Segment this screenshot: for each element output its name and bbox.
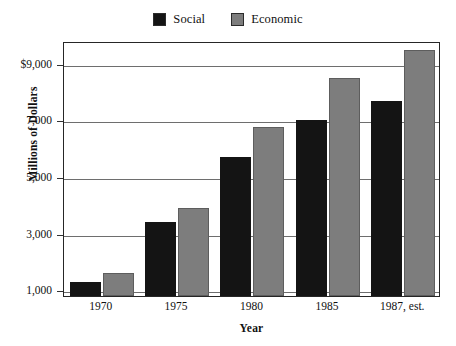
bar-group — [215, 43, 290, 296]
bar-group — [139, 43, 214, 296]
y-ticklabel: 3,000 — [26, 229, 52, 241]
bar-economic-1975[interactable] — [178, 208, 209, 296]
y-ticklabel: 5,000 — [26, 172, 52, 184]
bar-social-1970[interactable] — [70, 282, 101, 296]
x-ticklabel: 1970 — [89, 301, 112, 313]
bar-group — [366, 43, 440, 296]
bar-social-1987[interactable] — [371, 101, 402, 297]
legend-label: Social — [173, 13, 205, 26]
y-ticklabel: 1,000 — [26, 286, 52, 298]
bar-social-1980[interactable] — [220, 157, 251, 296]
plot-area — [63, 42, 440, 297]
bar-group — [64, 43, 139, 296]
y-ticklabel: 7,000 — [26, 116, 52, 128]
bar-economic-1987[interactable] — [404, 50, 435, 297]
bar-economic-1980[interactable] — [253, 127, 284, 296]
x-ticklabel: 1985 — [315, 301, 338, 313]
bar-economic-1985[interactable] — [329, 78, 360, 296]
black-square-swatch — [153, 13, 166, 26]
x-ticklabel: 1975 — [165, 301, 188, 313]
x-ticklabel: 1980 — [240, 301, 263, 313]
legend-entry[interactable]: Economic — [231, 13, 302, 26]
bars-layer — [64, 43, 439, 296]
x-ticklabel: 1987, est. — [380, 301, 424, 313]
legend-entry[interactable]: Social — [153, 13, 205, 26]
x-axis-ticklabels: 19701975198019851987, est. — [63, 301, 440, 321]
legend-label: Economic — [251, 13, 302, 26]
bar-group — [290, 43, 365, 296]
x-axis-title: Year — [63, 322, 440, 334]
gray-square-swatch — [231, 13, 244, 26]
y-ticklabel: $9,000 — [20, 59, 52, 71]
bar-social-1985[interactable] — [296, 120, 327, 296]
bar-social-1975[interactable] — [145, 222, 176, 296]
chart-legend: SocialEconomic — [0, 13, 456, 26]
bar-economic-1970[interactable] — [103, 273, 134, 296]
bar-chart-figure: SocialEconomic Millions of Dollars 1,000… — [0, 0, 456, 346]
y-axis-ticklabels: 1,0003,0005,0007,000$9,000 — [0, 0, 60, 346]
